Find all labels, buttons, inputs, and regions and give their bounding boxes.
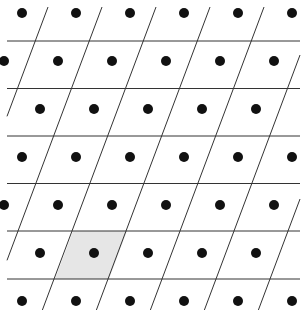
lattice-point xyxy=(143,104,153,114)
lattice-point xyxy=(269,56,279,66)
lattice-point xyxy=(0,200,9,210)
slanted-grid-line xyxy=(258,199,300,310)
lattice-point xyxy=(53,56,63,66)
lattice-point xyxy=(71,8,81,18)
lattice-point xyxy=(71,152,81,162)
lattice-point xyxy=(89,248,99,258)
lattice-points xyxy=(0,8,297,306)
lattice-point xyxy=(89,104,99,114)
slanted-grid-line xyxy=(96,7,210,310)
lattice-point xyxy=(125,296,135,306)
lattice-point xyxy=(197,104,207,114)
lattice-point xyxy=(215,200,225,210)
lattice-point xyxy=(179,152,189,162)
lattice-point xyxy=(53,200,63,210)
lattice-point xyxy=(251,104,261,114)
lattice-point xyxy=(215,56,225,66)
grid-lines xyxy=(7,7,300,310)
lattice-diagram xyxy=(0,0,304,316)
lattice-point xyxy=(197,248,207,258)
lattice-point xyxy=(17,152,27,162)
lattice-point xyxy=(287,152,297,162)
lattice-point xyxy=(125,152,135,162)
lattice-point xyxy=(35,248,45,258)
lattice-point xyxy=(71,296,81,306)
lattice-point xyxy=(17,296,27,306)
lattice-point xyxy=(143,248,153,258)
lattice-point xyxy=(179,296,189,306)
lattice-point xyxy=(233,152,243,162)
lattice-point xyxy=(161,200,171,210)
slanted-grid-line xyxy=(204,55,300,310)
lattice-point xyxy=(233,296,243,306)
lattice-point xyxy=(107,56,117,66)
lattice-point xyxy=(251,248,261,258)
lattice-point xyxy=(269,200,279,210)
slanted-grid-line xyxy=(7,7,102,260)
lattice-point xyxy=(233,8,243,18)
lattice-point xyxy=(17,8,27,18)
slanted-grid-line xyxy=(7,7,48,116)
slanted-grid-line xyxy=(150,7,264,310)
lattice-point xyxy=(179,8,189,18)
lattice-point xyxy=(287,296,297,306)
lattice-point xyxy=(125,8,135,18)
lattice-point xyxy=(107,200,117,210)
lattice-point xyxy=(0,56,9,66)
lattice-point xyxy=(35,104,45,114)
lattice-point xyxy=(287,8,297,18)
lattice-point xyxy=(161,56,171,66)
